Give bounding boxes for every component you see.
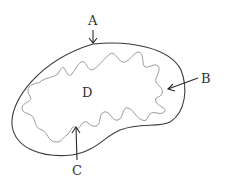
label-b: B bbox=[201, 72, 211, 85]
label-d: D bbox=[82, 86, 92, 99]
organelle-diagram bbox=[0, 0, 227, 188]
arrow-b-icon bbox=[168, 78, 198, 91]
label-c: C bbox=[72, 164, 82, 177]
inner-membrane bbox=[22, 52, 165, 142]
outer-membrane bbox=[12, 43, 185, 156]
arrow-a-icon bbox=[89, 30, 97, 43]
label-a: A bbox=[88, 14, 97, 27]
